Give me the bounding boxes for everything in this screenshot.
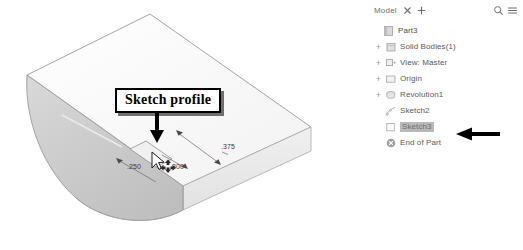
origin-folder-icon <box>385 73 397 85</box>
model-browser-panel: Model <box>366 0 523 250</box>
dimension-300-label[interactable]: .300 <box>170 163 184 170</box>
tree-item-origin[interactable]: + Origin <box>366 71 523 87</box>
pointer-arrow <box>454 126 502 142</box>
tree-item-solid-bodies[interactable]: + Solid Bodies(1) <box>366 39 523 55</box>
tree-item-sketch2[interactable]: Sketch2 <box>366 103 523 119</box>
document-icon <box>383 25 395 37</box>
add-tab-icon[interactable] <box>416 5 427 16</box>
tree-item-label: Revolution1 <box>400 90 443 100</box>
tree-item-label: Sketch2 <box>400 106 430 116</box>
browser-tabbar: Model <box>366 0 523 20</box>
tree-item-label: Sketch3 <box>400 122 434 132</box>
tree-item-label: Origin <box>400 74 422 84</box>
tree-item-label: Solid Bodies(1) <box>400 42 456 52</box>
close-icon[interactable] <box>402 5 413 16</box>
revolution-icon <box>385 89 397 101</box>
search-icon[interactable] <box>493 5 504 16</box>
end-of-part-icon <box>385 137 397 149</box>
tree-item-part3[interactable]: + Part3 <box>366 23 523 39</box>
tree-item-view-master[interactable]: + View: Master <box>366 55 523 71</box>
dimension-375-label[interactable]: .375 <box>221 143 235 150</box>
dimension-250-label[interactable]: .250 <box>127 163 141 170</box>
view-master-icon <box>385 57 397 69</box>
expander-icon[interactable]: + <box>374 59 383 68</box>
sketch-icon <box>385 105 397 117</box>
hamburger-menu-icon[interactable] <box>507 5 518 16</box>
tree-item-revolution1[interactable]: + Revolution1 <box>366 87 523 103</box>
sketch-profile-callout: Sketch profile <box>115 88 221 113</box>
expander-icon[interactable]: + <box>374 75 383 84</box>
tree-item-label: Part3 <box>398 26 418 36</box>
solid-bodies-icon <box>385 41 397 53</box>
sketch-hidden-icon <box>385 121 397 133</box>
expander-icon[interactable]: + <box>374 43 383 52</box>
tab-model[interactable]: Model <box>374 6 397 15</box>
expander-icon[interactable]: + <box>374 91 383 100</box>
screenshot-root: Sketch profile .375 .250 .300 Model <box>0 0 523 250</box>
tree-item-label: View: Master <box>400 58 447 68</box>
tree-item-label: End of Part <box>400 138 441 148</box>
solid-model-graphic[interactable] <box>0 0 366 250</box>
cad-viewport[interactable]: Sketch profile .375 .250 .300 <box>0 0 366 250</box>
